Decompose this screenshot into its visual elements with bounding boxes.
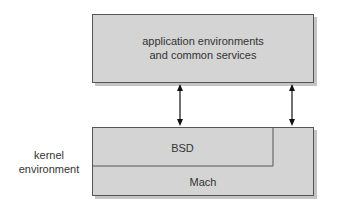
mach-label: Mach — [92, 175, 314, 189]
arrow-right-down-head — [289, 119, 295, 126]
kernel-label-line2: environment — [14, 162, 84, 176]
bsd-label: BSD — [92, 141, 273, 155]
arrow-left-up-head — [177, 84, 183, 91]
arrow-left-down-head — [177, 119, 183, 126]
kernel-environment-label: kernel environment — [14, 148, 84, 176]
arrow-right-up-head — [289, 84, 295, 91]
kernel-label-line1: kernel — [14, 148, 84, 162]
